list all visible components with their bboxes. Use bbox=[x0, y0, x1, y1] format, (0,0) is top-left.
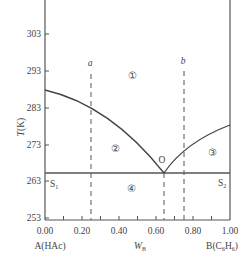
x-tick-0: 0.00 bbox=[37, 226, 54, 236]
region-3-label: ③ bbox=[208, 147, 217, 158]
liquidus-curve-a bbox=[45, 90, 164, 173]
y-tick-303: 303 bbox=[27, 29, 42, 39]
region-4-label: ④ bbox=[127, 183, 136, 194]
x-axis-label: WB bbox=[134, 241, 146, 252]
x-tick-040: 0.40 bbox=[111, 226, 128, 236]
y-tick-263: 263 bbox=[27, 176, 42, 186]
liquidus-curve-b bbox=[164, 125, 230, 173]
label-a: a bbox=[88, 58, 93, 68]
s1-label: S1 bbox=[50, 179, 58, 190]
phase-diagram: 303 293 283 273 263 253 T(K) 0.00 0.20 0… bbox=[0, 0, 248, 264]
x-tick-060: 0.60 bbox=[148, 226, 165, 236]
x-tick-080: 0.80 bbox=[185, 226, 202, 236]
component-b-label: B(C6H6) bbox=[206, 241, 238, 252]
y-axis-label: T(K) bbox=[16, 118, 27, 137]
x-tick-100: 1.00 bbox=[222, 226, 239, 236]
s2-label: S2 bbox=[218, 178, 226, 189]
y-tick-253: 253 bbox=[27, 213, 42, 223]
label-b: b bbox=[181, 56, 186, 66]
y-tick-293: 293 bbox=[27, 66, 42, 76]
x-tick-020: 0.20 bbox=[74, 226, 91, 236]
region-1-label: ① bbox=[128, 70, 137, 81]
y-tick-283: 283 bbox=[27, 103, 42, 113]
svg-text:T(K): T(K) bbox=[16, 118, 27, 137]
region-2-label: ② bbox=[111, 143, 120, 154]
y-tick-273: 273 bbox=[27, 140, 42, 150]
component-a-label: A(HAc) bbox=[34, 241, 65, 252]
eutectic-point-label: O bbox=[159, 155, 166, 165]
